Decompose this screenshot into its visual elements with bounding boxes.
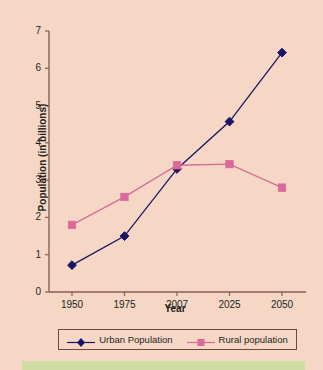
y-tick-label: 0 xyxy=(25,286,41,297)
y-tick-label: 1 xyxy=(25,249,41,260)
data-point-1-1 xyxy=(121,193,128,200)
diamond-marker-icon xyxy=(67,334,95,345)
y-axis-title: Population (in billions) xyxy=(37,68,48,248)
chart-page: 01234567 19501975200720252050 Population… xyxy=(0,0,323,370)
y-tick-label: 7 xyxy=(25,25,41,36)
series-line-0 xyxy=(72,53,282,266)
legend-label-urban: Urban Population xyxy=(99,334,172,345)
legend-entry-rural: Rural population xyxy=(187,334,288,345)
legend-label-rural: Rural population xyxy=(219,334,288,345)
chart-legend: Urban Population Rural population xyxy=(58,329,297,350)
data-point-0-0 xyxy=(68,261,77,270)
population-line-chart: 01234567 19501975200720252050 Population… xyxy=(0,0,323,370)
square-marker-icon xyxy=(187,334,215,345)
x-axis-title: Year xyxy=(40,303,310,314)
data-point-1-4 xyxy=(278,184,285,191)
chart-plot-svg xyxy=(0,0,323,370)
data-point-1-3 xyxy=(226,160,233,167)
data-point-1-2 xyxy=(173,162,180,169)
data-point-1-0 xyxy=(68,221,75,228)
bottom-color-strip xyxy=(22,361,305,370)
legend-entry-urban: Urban Population xyxy=(67,334,172,345)
